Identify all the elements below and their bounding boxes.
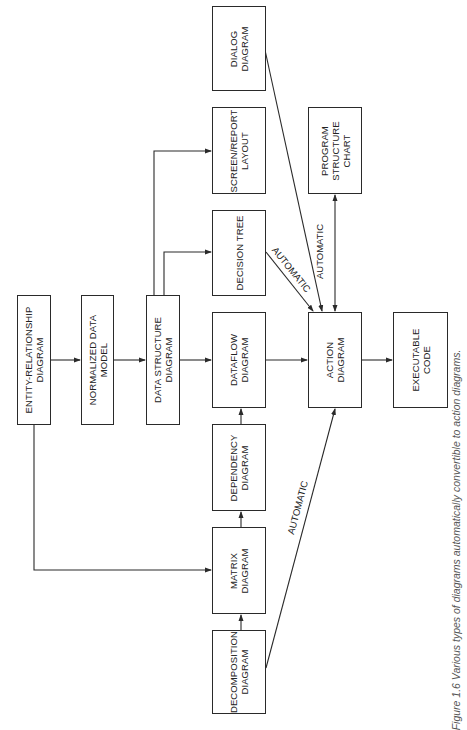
node-executable-code: EXECUTABLE CODE bbox=[393, 312, 448, 408]
edge-label-psc-automatic: AUTOMATIC bbox=[314, 224, 325, 279]
node-normalized-data-model: NORMALIZED DATA MODEL bbox=[81, 295, 114, 425]
node-label: DIALOG DIAGRAM bbox=[228, 26, 250, 71]
node-action-diagram: ACTION DIAGRAM bbox=[308, 312, 362, 408]
node-label: DECOMPOSITION DIAGRAM bbox=[228, 631, 250, 713]
edge-ds-to-screen bbox=[154, 151, 211, 295]
node-label: DEPENDENCY DIAGRAM bbox=[228, 434, 250, 501]
node-label: NORMALIZED DATA MODEL bbox=[87, 315, 109, 405]
edge-er-to-matrix bbox=[34, 425, 211, 570]
node-dataflow-diagram: DATAFLOW DIAGRAM bbox=[212, 312, 266, 408]
edge-decomp-to-action bbox=[266, 409, 335, 668]
node-label: ACTION DIAGRAM bbox=[324, 337, 346, 382]
node-matrix-diagram: MATRIX DIAGRAM bbox=[212, 527, 266, 614]
node-program-structure-chart: PROGRAM STRUCTURE CHART bbox=[308, 107, 362, 194]
node-data-structure-diagram: DATA STRUCTURE DIAGRAM bbox=[146, 295, 180, 425]
node-dependency-diagram: DEPENDENCY DIAGRAM bbox=[212, 424, 266, 511]
figure-caption: Figure 1.6 Various types of diagrams aut… bbox=[450, 350, 462, 730]
edge-ds-to-decision-tree bbox=[164, 252, 211, 295]
node-label: MATRIX DIAGRAM bbox=[228, 548, 250, 593]
node-label: ENTITY-RELATIONSHIP DIAGRAM bbox=[23, 307, 45, 414]
node-label: PROGRAM STRUCTURE CHART bbox=[319, 121, 352, 180]
node-entity-relationship-diagram: ENTITY-RELATIONSHIP DIAGRAM bbox=[17, 295, 51, 425]
node-decomposition-diagram: DECOMPOSITION DIAGRAM bbox=[212, 630, 266, 714]
node-label: DECISION TREE bbox=[234, 215, 245, 290]
node-decision-tree: DECISION TREE bbox=[212, 210, 266, 296]
node-dialog-diagram: DIALOG DIAGRAM bbox=[212, 6, 266, 91]
node-label: EXECUTABLE CODE bbox=[410, 328, 432, 391]
node-label: SCREEN/REPORT LAYOUT bbox=[228, 109, 250, 192]
node-label: DATA STRUCTURE DIAGRAM bbox=[152, 317, 174, 403]
node-label: DATAFLOW DIAGRAM bbox=[228, 334, 250, 386]
node-screen-report-layout: SCREEN/REPORT LAYOUT bbox=[212, 107, 266, 194]
